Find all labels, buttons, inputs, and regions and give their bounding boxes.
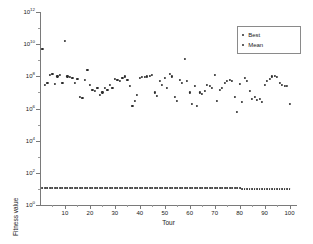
x-minor-tick — [227, 205, 228, 207]
data-point — [169, 72, 171, 74]
x-axis-title: Tour — [40, 219, 297, 226]
x-minor-tick — [177, 205, 178, 207]
y-tick — [36, 173, 40, 174]
x-tick — [215, 205, 216, 209]
x-tick — [165, 205, 166, 209]
data-point — [76, 78, 78, 80]
data-point — [86, 69, 88, 71]
data-point — [119, 80, 121, 82]
x-minor-tick — [127, 205, 128, 207]
x-minor-tick — [202, 205, 203, 207]
y-minor-tick — [38, 125, 40, 126]
y-tick-label: 1010 — [23, 41, 35, 47]
data-point — [159, 80, 161, 82]
legend-label-mean: Mean — [248, 42, 263, 48]
data-point — [174, 96, 176, 98]
x-tick — [115, 205, 116, 209]
data-point — [221, 86, 223, 88]
data-point — [263, 84, 265, 86]
y-tick — [36, 76, 40, 77]
legend-item-best: Best — [242, 30, 260, 40]
data-point — [216, 100, 218, 102]
y-tick-label: 104 — [26, 138, 35, 144]
legend: Best Mean — [237, 26, 301, 54]
data-point — [121, 77, 123, 79]
y-minor-tick — [38, 92, 40, 93]
data-point — [131, 105, 133, 107]
data-point — [186, 80, 188, 82]
data-point — [176, 100, 178, 102]
y-minor-tick — [38, 28, 40, 29]
data-point — [56, 75, 58, 77]
y-tick — [36, 109, 40, 110]
y-tick-label: 100 — [26, 202, 35, 208]
x-tick-label: 30 — [112, 210, 119, 216]
x-tick — [190, 205, 191, 209]
x-tick-label: 80 — [236, 210, 243, 216]
data-point — [171, 75, 173, 77]
data-point — [266, 80, 268, 82]
legend-marker-dot-icon — [242, 44, 244, 46]
x-tick-label: 10 — [62, 210, 69, 216]
data-point — [156, 95, 158, 97]
data-point — [46, 82, 48, 84]
x-minor-tick — [277, 205, 278, 207]
data-point — [196, 105, 198, 107]
x-tick — [290, 205, 291, 209]
data-point — [151, 74, 153, 76]
data-point — [204, 90, 206, 92]
data-point — [231, 79, 233, 81]
data-point — [134, 100, 136, 102]
data-point — [288, 103, 290, 105]
data-point — [211, 86, 213, 88]
x-tick — [90, 205, 91, 209]
data-point — [84, 79, 86, 81]
y-minor-tick — [38, 60, 40, 61]
y-tick-label: 108 — [26, 73, 35, 79]
data-point — [189, 91, 191, 93]
data-point — [161, 84, 163, 86]
data-point — [109, 84, 111, 86]
data-point — [71, 77, 73, 79]
data-point — [61, 82, 63, 84]
data-point — [124, 75, 126, 77]
x-minor-tick — [252, 205, 253, 207]
data-point — [96, 86, 98, 88]
legend-marker-dot-icon — [242, 34, 244, 36]
data-point — [106, 88, 108, 90]
data-point — [166, 86, 168, 88]
data-point — [89, 84, 91, 86]
data-point — [251, 98, 253, 100]
legend-item-mean: Mean — [242, 40, 263, 50]
data-point — [248, 90, 250, 92]
legend-label-best: Best — [248, 32, 260, 38]
x-tick-label: 70 — [211, 210, 218, 216]
data-point — [261, 101, 263, 103]
figure: 10010210410610810101012 1020304050607080… — [0, 0, 313, 244]
x-tick-label: 20 — [87, 210, 94, 216]
data-point — [41, 48, 43, 50]
y-tick-label: 102 — [26, 170, 35, 176]
y-tick-label: 1012 — [23, 9, 35, 15]
data-point — [136, 94, 138, 96]
x-minor-tick — [77, 205, 78, 207]
data-point — [276, 76, 278, 78]
x-tick-label: 60 — [186, 210, 193, 216]
data-point — [81, 97, 83, 99]
data-point — [219, 88, 221, 90]
data-point — [234, 96, 236, 98]
x-tick-label: 50 — [161, 210, 168, 216]
data-point — [289, 188, 291, 190]
data-point — [94, 89, 96, 91]
data-point — [201, 93, 203, 95]
y-tick — [36, 44, 40, 45]
data-point — [154, 91, 156, 93]
data-point — [286, 85, 288, 87]
x-tick — [240, 205, 241, 209]
x-minor-tick — [102, 205, 103, 207]
data-point — [99, 94, 101, 96]
data-point — [258, 98, 260, 100]
x-tick — [65, 205, 66, 209]
y-tick — [36, 12, 40, 13]
x-tick — [265, 205, 266, 209]
